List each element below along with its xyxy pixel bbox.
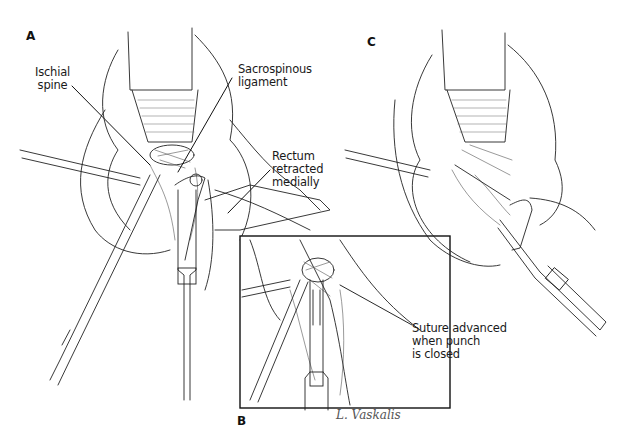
label-sacrospinous-ligament: Sacrospinous ligament [238,63,312,89]
panel-label-b: B [237,414,246,428]
label-suture-advanced: Suture advanced when punch is closed [412,322,507,361]
artist-signature: L. Vaskalis [336,408,401,422]
label-ischial-spine: Ischial spine [35,66,70,92]
panel-label-a: A [26,29,35,43]
panel-label-c: C [367,35,376,49]
leader-lines [72,78,270,213]
label-rectum-retracted: Rectum retracted medially [272,150,323,189]
surgical-illustration [0,0,628,441]
